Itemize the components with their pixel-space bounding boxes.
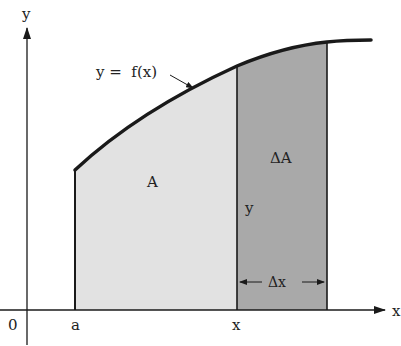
- height-y-label: y: [244, 199, 254, 217]
- x-axis-label: x: [392, 302, 401, 320]
- function-label-leader: [170, 75, 193, 88]
- area-under-curve-diagram: y x 0 a x y = f(x) A ΔA y Δx: [0, 0, 401, 346]
- a-tick-label: a: [71, 316, 80, 334]
- origin-label: 0: [8, 316, 18, 334]
- delta-x-label: Δx: [268, 274, 286, 290]
- region-delta-a: [237, 42, 327, 310]
- x-tick-label: x: [232, 316, 241, 334]
- region-a-label: A: [146, 173, 158, 191]
- region-delta-a-label: ΔA: [270, 149, 292, 167]
- function-label: y = f(x): [95, 63, 157, 81]
- y-axis-label: y: [21, 5, 31, 23]
